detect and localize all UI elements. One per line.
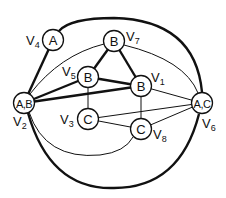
node-label-main: V bbox=[60, 112, 69, 127]
node-label: V2 bbox=[13, 114, 27, 131]
node-label-sub: 7 bbox=[135, 36, 140, 46]
node-v4: AV4 bbox=[26, 30, 64, 51]
node-content: A,C bbox=[194, 98, 211, 110]
node-label-sub: 4 bbox=[35, 40, 40, 50]
node-label-main: V bbox=[202, 116, 211, 131]
node-content: A,B bbox=[16, 98, 32, 110]
node-content: B bbox=[137, 79, 146, 94]
node-content: B bbox=[110, 34, 119, 49]
node-label: V7 bbox=[126, 29, 140, 46]
graph-diagram: BV1A,BV2CV3AV4BV5A,CV6BV7CV8 bbox=[0, 0, 226, 198]
node-label-sub: 2 bbox=[22, 121, 27, 131]
node-label-sub: 5 bbox=[71, 71, 76, 81]
node-v3: CV3 bbox=[60, 109, 99, 130]
node-label-sub: 6 bbox=[211, 123, 216, 133]
node-label: V8 bbox=[153, 127, 167, 144]
edge-v3-v6 bbox=[88, 103, 202, 119]
node-v5: BV5 bbox=[62, 64, 99, 88]
node-label: V6 bbox=[202, 116, 216, 133]
node-label-main: V bbox=[153, 127, 162, 142]
node-label-sub: 1 bbox=[160, 77, 165, 87]
node-v8: CV8 bbox=[131, 119, 167, 145]
node-label-main: V bbox=[26, 33, 35, 48]
node-label-main: V bbox=[126, 29, 135, 44]
node-v1: BV1 bbox=[131, 70, 165, 97]
node-content: C bbox=[136, 122, 145, 137]
node-label-main: V bbox=[62, 64, 71, 79]
node-label: V4 bbox=[26, 33, 40, 50]
node-label-sub: 8 bbox=[162, 134, 167, 144]
node-label: V3 bbox=[60, 112, 74, 129]
node-content: B bbox=[84, 70, 93, 85]
node-content: A bbox=[49, 33, 58, 48]
node-label: V5 bbox=[62, 64, 76, 81]
node-label-main: V bbox=[13, 114, 22, 129]
edge-v2-v1 bbox=[24, 86, 141, 103]
node-label-main: V bbox=[151, 70, 160, 85]
node-content: C bbox=[83, 112, 92, 127]
node-label-sub: 3 bbox=[69, 119, 74, 129]
node-label: V1 bbox=[151, 70, 165, 87]
